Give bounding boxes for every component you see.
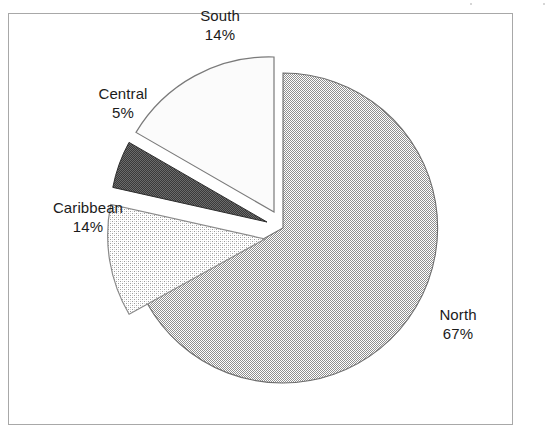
pie-label-north-name: North	[439, 306, 476, 323]
pie-label-caribbean: Caribbean 14%	[18, 198, 158, 236]
pie-label-central-percent: 5%	[58, 103, 188, 122]
pie-label-central: Central 5%	[58, 84, 188, 122]
pie-label-south-name: South	[200, 7, 240, 24]
pie-label-south-percent: 14%	[150, 25, 290, 44]
pie-label-caribbean-name: Caribbean	[53, 199, 123, 216]
pie-label-north-percent: 67%	[398, 324, 518, 343]
pie-label-north: North 67%	[398, 305, 518, 343]
pie-chart-figure: South 14% Central 5% Caribbean 14% North…	[0, 0, 551, 440]
pie-label-south: South 14%	[150, 6, 290, 44]
pie-label-caribbean-percent: 14%	[18, 217, 158, 236]
pie-label-central-name: Central	[98, 85, 147, 102]
